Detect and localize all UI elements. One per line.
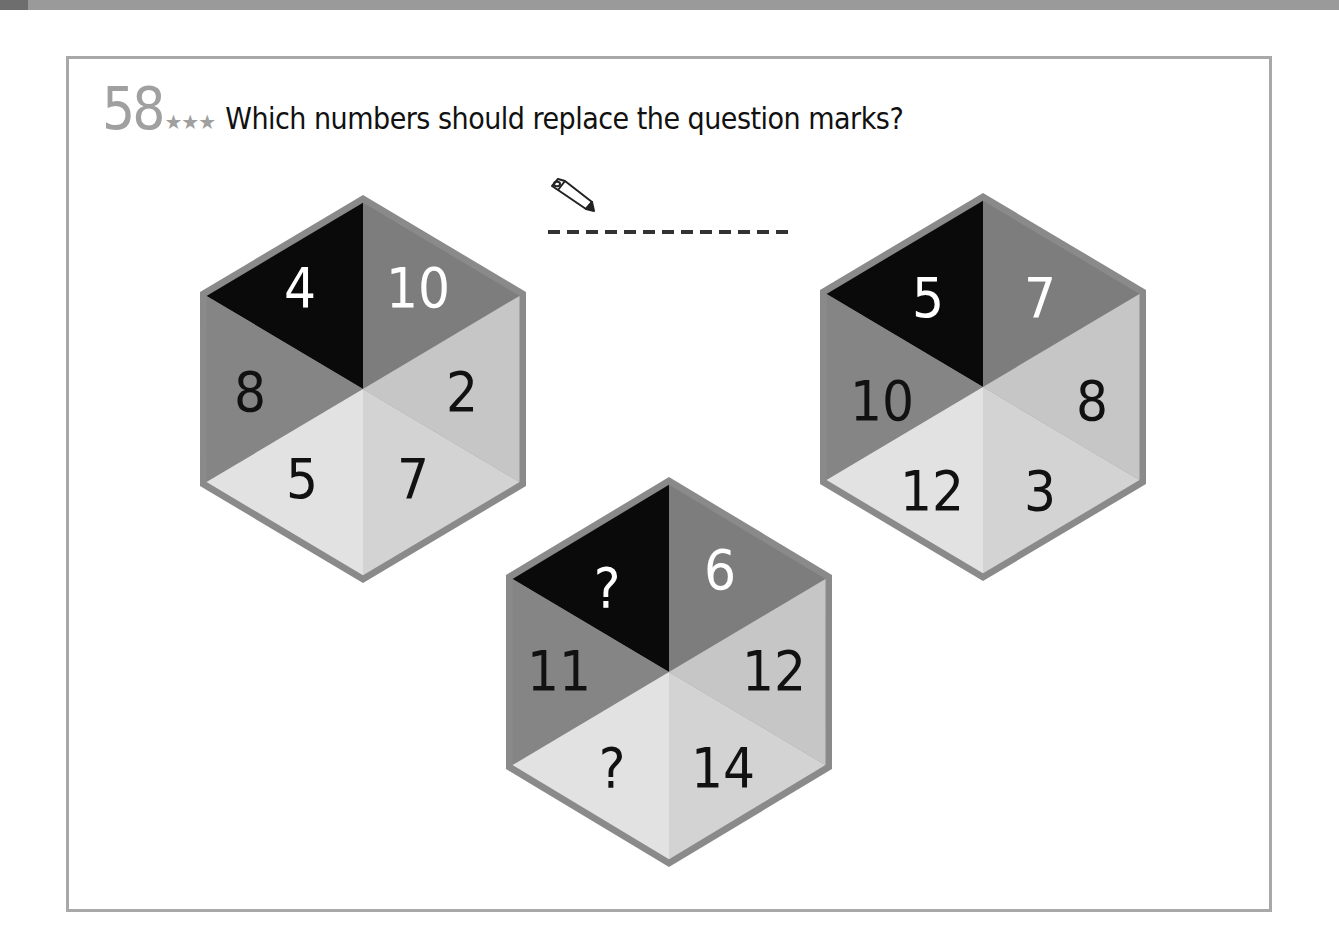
puzzle-question: Which numbers should replace the questio… — [225, 101, 903, 136]
top-bar — [0, 0, 1339, 10]
hexagon-right: 5 7 10 8 12 3 — [820, 193, 1146, 581]
value-top-right: 10 — [386, 255, 450, 320]
value-top-right: 6 — [704, 537, 736, 602]
top-bar-accent — [0, 0, 28, 10]
value-bottom-right: 7 — [397, 446, 429, 511]
value-bottom-right: 3 — [1024, 458, 1056, 523]
value-bottom-left: 12 — [900, 458, 964, 523]
value-right: 12 — [742, 638, 806, 703]
value-right: 8 — [1076, 368, 1108, 433]
value-left: 10 — [850, 368, 914, 433]
answer-line[interactable] — [548, 230, 792, 234]
value-left: 8 — [234, 359, 266, 424]
value-right: 2 — [446, 359, 478, 424]
puzzle-header: 58 ★★★ Which numbers should replace the … — [102, 80, 903, 160]
value-bottom-left: 5 — [286, 446, 318, 511]
value-top-left: 5 — [912, 265, 944, 330]
hexagon-bottom: ? 6 11 12 ? 14 — [506, 477, 832, 867]
pencil-icon — [548, 176, 596, 214]
value-top-right: 7 — [1024, 265, 1056, 330]
value-bottom-right: 14 — [691, 735, 755, 800]
value-top-left: 4 — [284, 255, 316, 320]
value-bottom-left: ? — [599, 735, 626, 800]
hexagon-left: 4 10 8 2 5 7 — [200, 195, 526, 583]
difficulty-stars-icon: ★★★ — [164, 110, 215, 134]
puzzle-number: 58 — [102, 80, 162, 138]
value-left: 11 — [527, 638, 591, 703]
value-top-left: ? — [594, 555, 621, 620]
